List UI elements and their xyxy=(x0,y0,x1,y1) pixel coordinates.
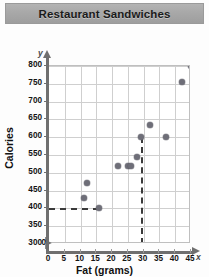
y-tick-label: 650 xyxy=(18,114,42,122)
y-tick-mark xyxy=(44,83,48,84)
x-tick-mark xyxy=(127,249,128,253)
gridline-vertical xyxy=(128,66,129,242)
y-tick-label: 700 xyxy=(18,97,42,105)
gridline-horizontal xyxy=(49,102,189,103)
y-tick-label: 450 xyxy=(18,186,42,194)
y-tick-label: 400 xyxy=(18,203,42,211)
y-tick-label: 350 xyxy=(18,221,42,229)
data-point xyxy=(188,65,190,69)
gridline-vertical xyxy=(81,66,82,242)
gridline-horizontal xyxy=(49,173,189,174)
x-tick-mark xyxy=(174,249,175,253)
gridline-horizontal xyxy=(49,66,189,67)
y-tick-mark xyxy=(44,65,48,66)
x-tick-label: 45 xyxy=(180,254,200,263)
y-tick-mark xyxy=(44,118,48,119)
x-tick-mark xyxy=(190,249,191,253)
plot-area xyxy=(48,65,190,243)
gridline-horizontal xyxy=(49,119,189,120)
y-tick-mark xyxy=(44,225,48,226)
data-point xyxy=(138,134,144,140)
data-point xyxy=(134,154,140,160)
gridline-vertical xyxy=(96,66,97,242)
x-tick-mark xyxy=(95,249,96,253)
data-point xyxy=(81,195,87,201)
gridline-horizontal xyxy=(49,155,189,156)
y-tick-label: 500 xyxy=(18,168,42,176)
data-point xyxy=(128,163,134,169)
x-tick-mark xyxy=(64,249,65,253)
x-tick-mark xyxy=(158,249,159,253)
y-tick-label: 550 xyxy=(18,150,42,158)
chart-page: Restaurant Sandwiches 0 y x Fat (grams) … xyxy=(0,0,209,277)
data-point xyxy=(115,163,121,169)
y-tick-mark xyxy=(44,172,48,173)
y-tick-label: 300 xyxy=(18,239,42,247)
y-tick-mark xyxy=(44,190,48,191)
gridline-horizontal xyxy=(49,84,189,85)
y-axis-symbol: y xyxy=(38,48,43,58)
y-tick-mark xyxy=(44,207,48,208)
y-tick-label: 750 xyxy=(18,79,42,87)
data-point xyxy=(163,134,169,140)
gridline-vertical xyxy=(112,66,113,242)
gridline-horizontal xyxy=(49,226,189,227)
reference-line-horizontal xyxy=(49,208,99,210)
data-point xyxy=(84,180,90,186)
x-tick-mark xyxy=(80,249,81,253)
y-tick-label: 800 xyxy=(18,61,42,69)
x-tick-mark xyxy=(143,249,144,253)
page-title: Restaurant Sandwiches xyxy=(6,4,203,23)
y-axis-arrow xyxy=(43,50,51,58)
y-tick-mark xyxy=(44,136,48,137)
gridline-vertical xyxy=(159,66,160,242)
scatter-chart: 0 y x Fat (grams) Calories 3003504004505… xyxy=(0,24,209,277)
gridline-horizontal xyxy=(49,191,189,192)
data-point xyxy=(179,79,185,85)
gridline-vertical xyxy=(175,66,176,242)
y-tick-label: 600 xyxy=(18,132,42,140)
data-point xyxy=(147,122,153,128)
y-tick-mark xyxy=(44,243,48,244)
x-tick-mark xyxy=(111,249,112,253)
x-axis-title: Fat (grams) xyxy=(0,264,209,276)
reference-line-vertical xyxy=(141,137,143,243)
data-point xyxy=(96,205,102,211)
chart-title-bar: Restaurant Sandwiches xyxy=(5,3,204,24)
y-axis-title: Calories xyxy=(3,116,15,180)
gridline-vertical xyxy=(144,66,145,242)
y-tick-mark xyxy=(44,101,48,102)
gridline-vertical xyxy=(65,66,66,242)
y-tick-mark xyxy=(44,154,48,155)
